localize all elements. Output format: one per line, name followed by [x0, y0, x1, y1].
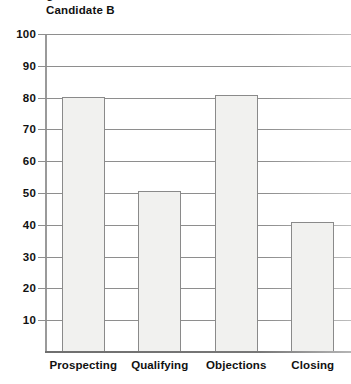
bar-chart: g Candidate B 102030405060708090100 Pros…: [0, 0, 351, 384]
bar: [215, 95, 258, 352]
plot-area: [45, 34, 351, 352]
x-axis-baseline: [45, 351, 351, 353]
y-axis-tick-label: 40: [23, 219, 36, 231]
y-axis-tick-label: 90: [23, 60, 36, 72]
clipped-header-text: g: [46, 0, 54, 1]
x-axis-category-label: Qualifying: [122, 359, 199, 371]
y-axis-tick-label: 30: [23, 251, 36, 263]
x-axis-category-label: Closing: [275, 359, 351, 371]
y-axis-tick-label: 20: [23, 282, 36, 294]
y-axis-tick-label: 100: [16, 28, 36, 40]
x-axis-category-label: Prospecting: [45, 359, 122, 371]
y-axis-tick-label: 50: [23, 187, 36, 199]
y-axis-tick-label: 60: [23, 155, 36, 167]
bar: [291, 222, 334, 352]
x-axis-category-label: Objections: [198, 359, 275, 371]
bar: [138, 191, 181, 352]
y-axis-tick-label: 80: [23, 92, 36, 104]
y-axis-tick-label: 10: [23, 314, 36, 326]
y-axis-tick-label: 70: [23, 123, 36, 135]
bar: [62, 97, 105, 352]
chart-title: Candidate B: [46, 4, 115, 16]
